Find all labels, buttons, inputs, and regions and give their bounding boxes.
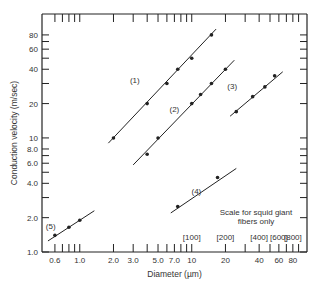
data-point <box>251 95 255 99</box>
y-tick-label: 20 <box>29 100 38 109</box>
series-label: (1) <box>130 76 140 85</box>
x-tick-label: 1.0 <box>74 256 86 265</box>
series-label: (2) <box>170 105 180 114</box>
x-tick-label: 5.0 <box>152 256 164 265</box>
x-tick-label: 60 <box>274 256 283 265</box>
data-point <box>112 136 116 140</box>
y-tick-label: 2.0 <box>27 214 39 223</box>
data-point <box>199 93 203 97</box>
data-point <box>78 218 82 222</box>
y-tick-label: 1.0 <box>27 248 39 257</box>
conduction-velocity-chart: 0.61.02.03.05.07.010204060801.02.04.06.0… <box>0 0 328 286</box>
y-tick-label: 80 <box>29 31 38 40</box>
x-tick-label: 40 <box>255 256 264 265</box>
x-tick-label: 20 <box>221 256 230 265</box>
x-tick-label: 7.0 <box>169 256 181 265</box>
y-tick-label: 40 <box>29 65 38 74</box>
squid-scale-label: [400] <box>250 233 268 242</box>
data-point <box>165 82 169 86</box>
x-tick-label: 2.0 <box>108 256 120 265</box>
x-tick-label: 10 <box>187 256 196 265</box>
data-point <box>176 67 180 71</box>
data-point <box>145 152 149 156</box>
squid-scale-caption: Scale for squid giant <box>220 208 293 217</box>
data-point <box>224 67 228 71</box>
data-point <box>190 56 194 60</box>
y-tick-label: 4.0 <box>27 179 39 188</box>
data-point <box>190 102 194 106</box>
data-point <box>210 33 214 37</box>
data-point <box>176 205 180 209</box>
data-point <box>210 82 214 86</box>
series-label: (3) <box>227 82 237 91</box>
data-point <box>216 176 220 180</box>
y-tick-label: 8.0 <box>27 145 39 154</box>
series-label: (5) <box>46 222 56 231</box>
y-tick-label: 6.0 <box>27 159 39 168</box>
squid-scale-label: [800] <box>284 233 302 242</box>
y-axis-title: Conduction velocity (m/sec) <box>9 81 19 186</box>
squid-scale-label: [200] <box>217 233 235 242</box>
fit-line-1 <box>108 29 216 143</box>
x-tick-label: 3.0 <box>128 256 140 265</box>
y-tick-label: 10 <box>29 134 38 143</box>
data-point <box>273 74 277 78</box>
fit-line-4 <box>171 168 237 212</box>
data-point <box>145 102 149 106</box>
x-axis-title: Diameter (µm) <box>147 269 202 279</box>
squid-scale-label: [100] <box>183 233 201 242</box>
x-tick-label: 0.6 <box>49 256 61 265</box>
fit-line-2 <box>133 60 234 165</box>
data-point <box>263 85 267 89</box>
y-tick-label: 60 <box>29 45 38 54</box>
fit-line-3 <box>230 72 283 116</box>
series-label: (4) <box>191 187 201 196</box>
data-point <box>156 136 160 140</box>
data-point <box>67 225 71 229</box>
data-point <box>53 234 57 238</box>
x-tick-label: 80 <box>288 256 297 265</box>
squid-scale-caption: fibers only <box>238 217 274 226</box>
data-point <box>234 110 238 114</box>
